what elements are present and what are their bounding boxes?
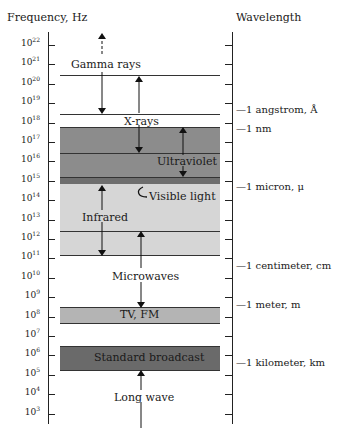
wavelength-meter-label: —1 meter, m: [236, 299, 300, 310]
tv-fm-label: TV, FM: [120, 308, 159, 321]
wavelength-angstrom-label: —1 angstrom, Å: [236, 104, 317, 115]
wavelength-kilometer-label: —1 kilometer, km: [236, 357, 325, 368]
range-arrows: [0, 0, 339, 444]
visible-light-label: Visible light: [149, 190, 216, 203]
ultraviolet-label: Ultraviolet: [157, 155, 217, 168]
microwaves-label: Microwaves: [112, 270, 179, 283]
gamma-rays-label: Gamma rays: [71, 58, 141, 71]
visible-light-pointer: [138, 187, 147, 197]
infrared-label: Infrared: [82, 211, 128, 224]
standard-broadcast-label: Standard broadcast: [94, 351, 204, 364]
wavelength-micron-label: —1 micron, μ: [236, 181, 304, 192]
wavelength-centimeter-label: —1 centimeter, cm: [236, 260, 331, 271]
x-rays-label: X-rays: [124, 115, 159, 128]
wavelength-nm-label: —1 nm: [236, 123, 271, 134]
long-wave-label: Long wave: [114, 391, 174, 404]
